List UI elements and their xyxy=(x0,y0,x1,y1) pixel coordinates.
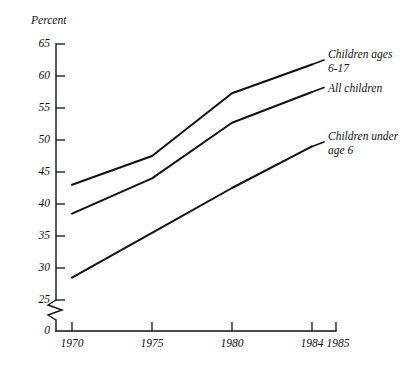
x-tick-label-1980: 1980 xyxy=(202,338,262,350)
y-tick-label-55: 55 xyxy=(12,102,50,114)
series-label-all-children: All children xyxy=(328,82,382,96)
series-line-children-ages-6-17 xyxy=(72,65,312,185)
x-tick-label-1970: 1970 xyxy=(42,338,102,350)
y-tick-label-35: 35 xyxy=(12,230,50,242)
series-label-children-under-age-6: Children under age 6 xyxy=(328,130,398,157)
y-tick-label-65: 65 xyxy=(12,38,50,50)
y-tick-label-45: 45 xyxy=(12,166,50,178)
y-tick-label-30: 30 xyxy=(12,262,50,274)
x-tick-label-1985: 1985 xyxy=(310,338,366,350)
y-tick-label-60: 60 xyxy=(12,70,50,82)
series-label-children-ages-6-17: Children ages 6-17 xyxy=(328,48,392,75)
leader-line-series-1 xyxy=(312,88,324,93)
y-tick-label-50: 50 xyxy=(12,134,50,146)
y-tick-label-25: 25 xyxy=(12,294,50,306)
y-tick-label-40: 40 xyxy=(12,198,50,210)
y-tick-label-0: 0 xyxy=(12,325,50,337)
line-chart: Percent 65 60 55 50 45 40 35 30 25 0 197… xyxy=(0,0,413,373)
leader-line-series-0 xyxy=(312,60,324,65)
series-line-children-under-age-6 xyxy=(72,146,312,277)
x-tick-label-1975: 1975 xyxy=(122,338,182,350)
leader-line-series-2 xyxy=(312,142,324,147)
y-axis-title: Percent xyxy=(31,14,66,26)
series-line-all-children xyxy=(72,92,312,214)
axis-break-icon xyxy=(48,300,62,320)
